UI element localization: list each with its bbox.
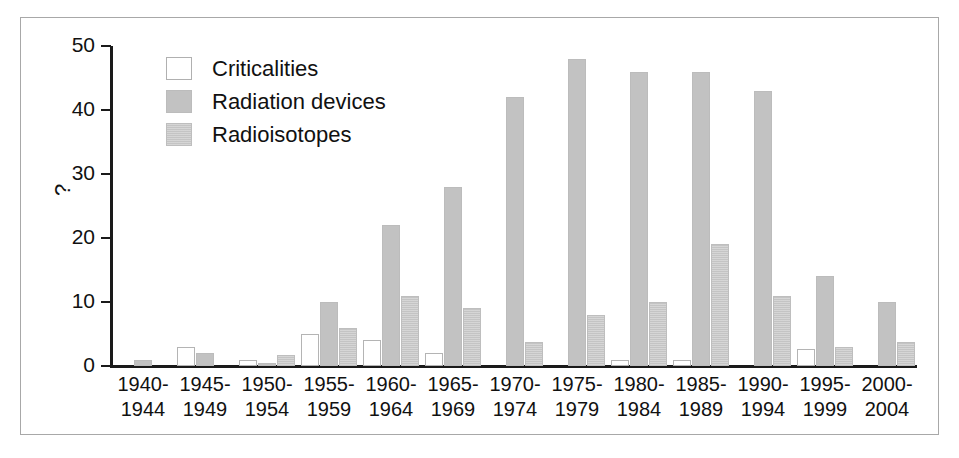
bar-group [735,40,791,366]
bar-criticalities [797,349,815,366]
bar-devices [196,353,214,366]
bar-criticalities [363,340,381,366]
bar-group [673,40,729,366]
bar-group [859,40,915,366]
bar-group [797,40,853,366]
chart-figure: 01020304050 ? 1940-19441945-19491950-195… [0,0,959,458]
y-axis-tick-label: 30 [35,162,95,183]
x-axis-tick-label: 1960-1964 [360,372,422,422]
bar-isotopes [897,342,915,366]
x-axis-tick-label-line: 1955- [298,372,360,397]
bar-criticalities [177,347,195,366]
x-axis-tick-label-line: 1980- [608,372,670,397]
bar-devices [320,302,338,366]
legend-label-radioisotopes: Radioisotopes [212,122,351,148]
x-axis-tick-label-line: 1975- [546,372,608,397]
x-axis-tick-label: 1945-1949 [174,372,236,422]
legend-label-criticalities: Criticalities [212,56,318,82]
x-axis-tick-label: 1980-1984 [608,372,670,422]
bar-devices [878,302,896,366]
x-axis-tick-label-line: 1979 [546,397,608,422]
x-axis-tick-label-line: 1974 [484,397,546,422]
legend-item-criticalities: Criticalities [166,52,496,85]
bar-isotopes [339,328,357,366]
bar-isotopes [711,244,729,366]
bar-isotopes [773,296,791,366]
x-axis-tick-label: 1995-1999 [794,372,856,422]
y-axis-tick [101,301,111,303]
x-axis-tick-label: 1975-1979 [546,372,608,422]
y-axis-tick [101,173,111,175]
bar-criticalities [673,360,691,366]
x-axis-tick-label-line: 1995- [794,372,856,397]
x-axis-tick-label: 1950-1954 [236,372,298,422]
y-axis-tick [101,365,111,367]
bar-group [115,40,171,366]
bar-devices [568,59,586,366]
y-axis-tick-labels: 01020304050 [30,0,95,458]
y-axis-tick-label: 0 [35,354,95,375]
y-axis-tick-label: 10 [35,290,95,311]
x-axis-tick-label-line: 1969 [422,397,484,422]
x-axis-tick-label-line: 1949 [174,397,236,422]
bar-group [549,40,605,366]
bar-devices [382,225,400,366]
bar-devices [692,72,710,366]
x-axis-tick-label-line: 2004 [856,397,918,422]
x-axis-tick-label: 1965-1969 [422,372,484,422]
bar-criticalities [425,353,443,366]
x-axis-tick-label: 1970-1974 [484,372,546,422]
bar-devices [754,91,772,366]
chart-legend: Criticalities Radiation devices Radioiso… [166,52,496,151]
x-axis-tick-label: 1985-1989 [670,372,732,422]
x-axis-tick-label-line: 1959 [298,397,360,422]
x-axis-tick-label-line: 1970- [484,372,546,397]
bar-devices [444,187,462,366]
bar-isotopes [587,315,605,366]
x-axis-tick-label-line: 1964 [360,397,422,422]
bar-devices [506,97,524,366]
legend-item-radiation-devices: Radiation devices [166,85,496,118]
legend-item-radioisotopes: Radioisotopes [166,118,496,151]
x-axis-tick-label-line: 1950- [236,372,298,397]
x-axis-tick-labels: 1940-19441945-19491950-19541955-19591960… [112,372,918,434]
bar-criticalities [301,334,319,366]
y-axis-tick-label: 40 [35,98,95,119]
x-axis-tick-label-line: 1999 [794,397,856,422]
bar-isotopes [277,355,295,366]
x-axis-tick-label-line: 1944 [112,397,174,422]
y-axis-tick [101,237,111,239]
x-axis-tick-label-line: 1954 [236,397,298,422]
x-axis-tick-label-line: 1990- [732,372,794,397]
y-axis-tick [101,109,111,111]
legend-label-radiation-devices: Radiation devices [212,89,386,115]
bar-isotopes [649,302,667,366]
x-axis-tick-label-line: 1985- [670,372,732,397]
x-axis-tick-label-line: 2000- [856,372,918,397]
bar-devices [258,363,276,366]
bar-devices [134,360,152,366]
bar-isotopes [835,347,853,366]
y-axis-tick [101,45,111,47]
x-axis-tick-label-line: 1940- [112,372,174,397]
x-axis-tick-label: 1990-1994 [732,372,794,422]
y-axis-title: ? [50,184,76,196]
bar-devices [630,72,648,366]
legend-swatch-radioisotopes-icon [166,123,192,146]
x-axis-tick-label-line: 1984 [608,397,670,422]
x-axis-tick-label: 1955-1959 [298,372,360,422]
x-axis-tick-label: 2000-2004 [856,372,918,422]
x-axis-tick-label: 1940-1944 [112,372,174,422]
y-axis-tick-label: 50 [35,34,95,55]
bar-isotopes [463,308,481,366]
bar-group [611,40,667,366]
legend-swatch-criticalities-icon [166,57,192,80]
bar-criticalities [611,360,629,366]
x-axis-tick-label-line: 1945- [174,372,236,397]
bar-isotopes [525,342,543,366]
bar-isotopes [401,296,419,366]
y-axis-tick-label: 20 [35,226,95,247]
legend-swatch-radiation-devices-icon [166,90,192,113]
x-axis-tick-label-line: 1989 [670,397,732,422]
bar-devices [816,276,834,366]
